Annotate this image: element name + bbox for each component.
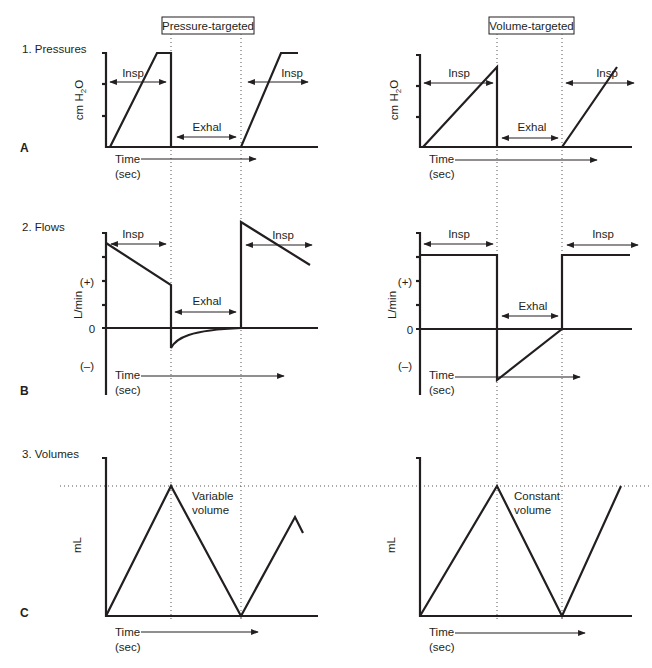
svg-text:Exhal: Exhal (193, 121, 222, 133)
svg-text:Time: Time (429, 626, 454, 638)
svg-text:Time: Time (429, 369, 454, 381)
header-pressure-targeted: Pressure-targeted (162, 17, 254, 34)
svg-text:0: 0 (407, 324, 413, 336)
svg-text:(sec): (sec) (115, 384, 141, 396)
svg-text:(sec): (sec) (429, 384, 455, 396)
flow-chart-pressure-targeted: L/min (+) 0 (–) Insp Insp Exhal Time (se… (72, 222, 318, 396)
panel-letter-b: B (20, 384, 29, 398)
panel-letter-c: C (20, 606, 29, 620)
pressure-chart-volume-targeted: cm H2O Insp Insp Exhal Time (sec) (388, 55, 634, 180)
svg-text:(sec): (sec) (115, 641, 141, 653)
svg-text:Insp: Insp (272, 229, 294, 241)
svg-text:(+): (+) (398, 276, 413, 288)
svg-text:L/min: L/min (386, 291, 398, 319)
svg-text:Exhal: Exhal (518, 121, 547, 133)
svg-text:Pressure-targeted: Pressure-targeted (162, 20, 254, 32)
svg-text:(sec): (sec) (115, 168, 141, 180)
y-axis-label-pressure: cm H2O (73, 80, 88, 120)
svg-text:Insp: Insp (448, 67, 470, 79)
svg-text:Time: Time (429, 153, 454, 165)
svg-text:L/min: L/min (72, 291, 84, 319)
volume-chart-pressure-targeted: mL Variable volume Time (sec) (71, 458, 318, 653)
pressure-chart-pressure-targeted: cm H2O Insp Insp Exhal Time (sec) (73, 53, 318, 180)
svg-text:(–): (–) (80, 360, 94, 372)
svg-text:Variable: Variable (192, 490, 233, 502)
svg-text:Insp: Insp (592, 228, 614, 240)
svg-text:Time: Time (115, 153, 140, 165)
svg-text:(sec): (sec) (429, 168, 455, 180)
volume-chart-volume-targeted: mL Constant volume Time (sec) (385, 458, 632, 653)
svg-text:(–): (–) (398, 360, 412, 372)
flow-chart-volume-targeted: L/min (+) 0 (–) Insp Insp Exhal Time (se… (386, 228, 638, 396)
row-label-pressures: 1. Pressures (22, 43, 87, 55)
ventilator-waveform-diagram: Pressure-targeted Volume-targeted 1. Pre… (0, 0, 652, 668)
svg-text:Volume-targeted: Volume-targeted (489, 20, 573, 32)
panel-letter-a: A (20, 141, 29, 155)
svg-text:(sec): (sec) (429, 641, 455, 653)
svg-text:Insp: Insp (596, 67, 618, 79)
svg-text:Insp: Insp (122, 228, 144, 240)
svg-text:Insp: Insp (281, 67, 303, 79)
svg-text:mL: mL (71, 536, 83, 553)
svg-text:(+): (+) (80, 276, 95, 288)
svg-text:Exhal: Exhal (193, 295, 222, 307)
y-axis-label-pressure: cm H2O (388, 80, 403, 120)
row-label-flows: 2. Flows (22, 221, 65, 233)
svg-text:volume: volume (192, 504, 229, 516)
flow-trace (420, 255, 630, 380)
pressure-trace (423, 67, 617, 147)
svg-text:Time: Time (115, 626, 140, 638)
svg-text:Constant: Constant (514, 490, 561, 502)
svg-text:volume: volume (514, 504, 551, 516)
svg-text:0: 0 (89, 323, 95, 335)
svg-text:Time: Time (115, 369, 140, 381)
header-volume-targeted: Volume-targeted (489, 17, 574, 34)
row-label-volumes: 3. Volumes (22, 448, 79, 460)
svg-text:Insp: Insp (448, 228, 470, 240)
svg-text:mL: mL (385, 536, 397, 553)
svg-text:Insp: Insp (122, 67, 144, 79)
svg-text:Exhal: Exhal (519, 300, 548, 312)
